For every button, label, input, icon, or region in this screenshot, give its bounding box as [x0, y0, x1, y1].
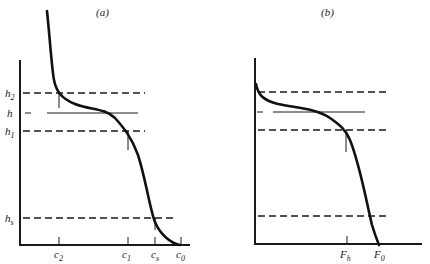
label-Fh: Fh [339, 248, 351, 263]
label-h: h [7, 107, 13, 119]
panel-a: (a) h2 h h1 hs c2 c1 cs c0 [5, 6, 190, 263]
label-c2: c2 [54, 248, 63, 263]
label-cs: cs [151, 248, 159, 263]
label-c1: c1 [122, 248, 131, 263]
label-c0: c0 [176, 248, 185, 263]
figure: (a) h2 h h1 hs c2 c1 cs c0 (b) [0, 0, 430, 264]
label-hs: hs [5, 212, 14, 227]
panel-b-title: (b) [321, 6, 334, 19]
panel-a-title: (a) [96, 6, 109, 19]
panel-a-curve [47, 11, 180, 245]
label-h2: h2 [5, 87, 15, 102]
panel-b-curve [256, 84, 379, 245]
panel-b: (b) Fh F0 [254, 6, 422, 263]
label-F0: F0 [373, 248, 385, 263]
label-h1: h1 [5, 125, 15, 140]
